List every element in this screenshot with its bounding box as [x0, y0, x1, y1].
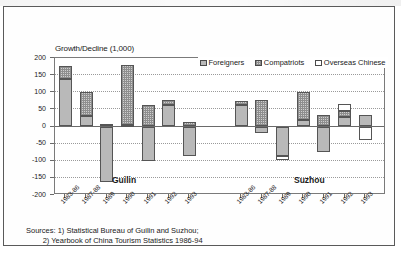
sources-note: Sources: 1) Statistical Bureau of Guilin…	[26, 226, 203, 245]
bar-segment	[142, 105, 155, 126]
bar-segment	[359, 115, 372, 127]
legend-item: Overseas Chinese	[315, 58, 385, 67]
legend-swatch-icon	[315, 60, 322, 66]
bar-segment	[338, 111, 351, 117]
bar-segment	[121, 125, 134, 127]
y-axis-title: Growth/Decline (1,000)	[55, 44, 134, 53]
bar-segment	[235, 105, 248, 126]
y-tick-label: -150	[20, 173, 46, 180]
bar-segment	[80, 92, 93, 116]
group-label-suzhou: Suzhou	[294, 175, 325, 185]
legend-swatch-icon	[255, 60, 262, 66]
legend-item: Foreigners	[200, 58, 244, 67]
y-tick-label: 50	[20, 105, 46, 112]
plot-area	[54, 57, 385, 194]
bar-segment	[276, 127, 289, 156]
bar-segment	[276, 156, 289, 160]
y-tick-label: 200	[20, 54, 46, 61]
bar-segment	[255, 127, 268, 134]
chart-legend: ForeignersCompatriotsOverseas Chinese	[198, 57, 388, 68]
bar-segment	[338, 117, 351, 127]
bar-segment	[100, 124, 113, 127]
bar-segment	[59, 66, 72, 79]
bar-segment	[183, 122, 196, 127]
group-label-guilin: Guilin	[112, 175, 136, 185]
bar-segment	[317, 127, 330, 152]
y-tick	[50, 194, 54, 195]
legend-label: Foreigners	[209, 58, 245, 67]
bar-segment	[80, 116, 93, 127]
bar-segment	[359, 127, 372, 141]
bar-segment	[183, 127, 196, 156]
bar-segment	[162, 105, 175, 126]
legend-label: Compatriots	[264, 58, 304, 67]
bar-segment	[59, 79, 72, 126]
bar-segment	[162, 100, 175, 105]
y-tick-label: 150	[20, 71, 46, 78]
y-tick-label: -50	[20, 139, 46, 146]
gridline	[55, 74, 384, 75]
figure-frame: Growth/Decline (1,000) 200150100500-50-1…	[3, 6, 395, 246]
y-tick-label: 0	[20, 122, 46, 129]
y-tick-label: -100	[20, 156, 46, 163]
y-tick-label: 100	[20, 88, 46, 95]
gridline	[55, 91, 384, 92]
legend-label: Overseas Chinese	[324, 58, 386, 67]
bar-segment	[100, 127, 113, 183]
bar-segment	[255, 100, 268, 127]
bar-segment	[338, 104, 351, 111]
bar-segment	[297, 92, 310, 120]
gridline	[55, 108, 384, 109]
bar-segment	[235, 101, 248, 105]
bar-segment	[142, 127, 155, 162]
y-tick-label: -200	[20, 191, 46, 198]
legend-swatch-icon	[200, 60, 207, 66]
legend-item: Compatriots	[255, 58, 304, 67]
bar-segment	[297, 120, 310, 127]
bar-segment	[121, 65, 134, 125]
bar-segment	[317, 115, 330, 127]
